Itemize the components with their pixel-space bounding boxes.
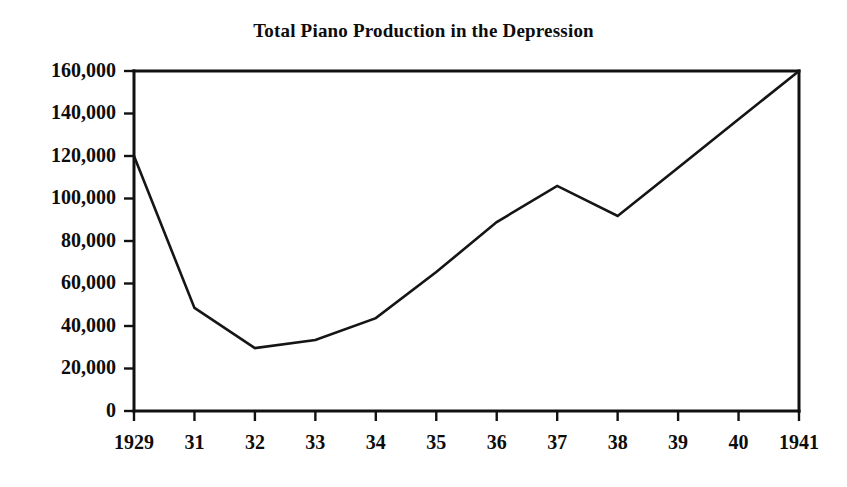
x-axis-tick-label: 1941 [779,431,819,453]
x-axis-tick-label: 32 [245,431,265,453]
production-data-line [134,71,799,348]
y-axis-tick-label: 60,000 [61,271,116,293]
x-axis-tick-label: 40 [729,431,749,453]
x-axis-tick-label: 39 [668,431,688,453]
y-axis-tick-label: 140,000 [51,101,116,123]
x-axis-tick-labels: 1929313233343536373839401941 [114,431,819,453]
y-axis-tick-labels: 020,00040,00060,00080,000100,000120,0001… [51,59,116,421]
x-axis-tick-label: 36 [487,431,507,453]
x-axis-tick-label: 34 [366,431,386,453]
y-axis-tick-label: 0 [106,399,116,421]
line-chart-plot: 020,00040,00060,00080,000100,000120,0001… [0,0,847,487]
x-axis-tick-label: 33 [305,431,325,453]
y-axis-tick-label: 100,000 [51,186,116,208]
y-axis-tick-label: 160,000 [51,59,116,81]
x-axis-tick-label: 31 [184,431,204,453]
x-axis-tick-label: 35 [426,431,446,453]
x-axis-tick-label: 38 [608,431,628,453]
chart-figure: Total Piano Production in the Depression… [0,0,847,487]
y-axis-tick-label: 120,000 [51,144,116,166]
y-axis-tick-label: 40,000 [61,314,116,336]
x-axis-tick-label: 37 [547,431,567,453]
y-axis-tick-label: 20,000 [61,356,116,378]
y-axis-tick-label: 80,000 [61,229,116,251]
x-axis-tick-label: 1929 [114,431,154,453]
